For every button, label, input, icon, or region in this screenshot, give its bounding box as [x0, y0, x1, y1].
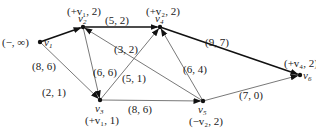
node-v6: [298, 73, 302, 77]
edge-label-v5-v2: (3, 2): [114, 43, 138, 56]
edge-v3-v4: [100, 29, 158, 100]
node-mark-v4: (+v₂, 2): [146, 5, 180, 18]
edge-label-v5-v6: (7, 0): [239, 89, 263, 102]
edge-label-v2-v4: (5, 2): [105, 14, 129, 27]
node-mark-v3: (+v₁, 1): [85, 114, 119, 127]
edge-label-v1-v3: (2, 1): [42, 86, 66, 99]
edge-label-v2-v3: (6, 6): [93, 66, 117, 79]
node-mark-v6: (+v₄, 2): [284, 57, 316, 70]
node-mark-v1: (−, ∞): [2, 36, 29, 49]
edge-label-v3-v5: (8, 6): [128, 103, 152, 116]
edge-v3-v5: [100, 100, 201, 101]
edge-label-v3-v4: (5, 1): [122, 72, 146, 85]
node-label-v6: v6: [303, 69, 312, 83]
edge-v4-v6: [160, 27, 298, 74]
edge-v2-v3: [83, 27, 99, 98]
edge-label-v5-v4: (6, 4): [183, 63, 207, 76]
node-mark-v5: (−v₂, 2): [189, 115, 223, 128]
node-mark-v2: (+v₁, 2): [67, 5, 101, 18]
edge-label-v4-v6: (9, 7): [205, 36, 229, 49]
flow-network-diagram: v1v2v3v4v5v6 (8, 6) (2, 1) (5, 2) (6, 6)…: [0, 0, 316, 133]
edge-label-v1-v2: (8, 6): [32, 60, 56, 73]
node-v1: [38, 40, 42, 44]
